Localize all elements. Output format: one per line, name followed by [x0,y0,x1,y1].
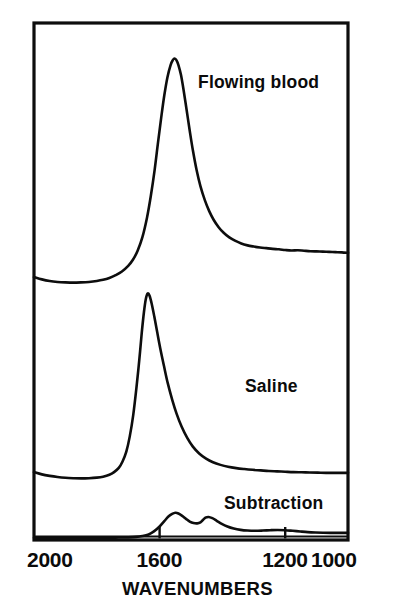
x-tick-label-1200: 1200 [262,548,308,572]
x-tick-label-1600: 1600 [137,548,183,572]
spectrum-traces [34,58,348,537]
x-tick-label-1000: 1000 [311,548,357,572]
x-axis-title: WAVENUMBERS [0,578,395,600]
x-tick-label-2000: 2000 [27,548,73,572]
trace-saline [34,293,348,478]
series-label-subtraction: Subtraction [224,493,323,514]
series-label-saline: Saline [245,376,298,397]
trace-subtraction [34,513,348,538]
series-label-flowing-blood: Flowing blood [198,72,319,93]
spectroscopy-figure: Flowing blood Saline Subtraction 2000 16… [0,0,395,609]
